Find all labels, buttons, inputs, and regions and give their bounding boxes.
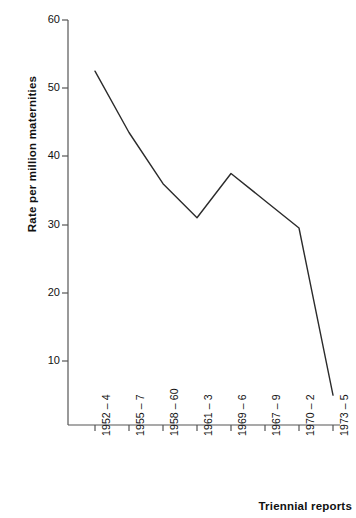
x-tick-label: 1958 – 60 <box>168 388 180 436</box>
x-tick-label: 1952 – 4 <box>100 394 112 436</box>
x-tick-label: 1969 – 6 <box>236 394 248 436</box>
x-tick-label: 1973 – 5 <box>338 394 350 436</box>
x-tick-marks <box>95 425 333 431</box>
x-tick-label: 1970 – 2 <box>304 394 316 436</box>
x-tick-label: 1955 – 7 <box>134 394 146 436</box>
chart-figure: Rate per million maternities 60 50 40 30… <box>0 0 356 518</box>
x-tick-label: 1961 – 3 <box>202 394 214 436</box>
x-tick-label: 1967 – 9 <box>270 394 282 436</box>
y-tick-marks <box>62 20 68 361</box>
x-axis-title: Triennial reports <box>258 500 352 512</box>
plot-area <box>0 0 356 518</box>
data-line-series <box>95 71 333 395</box>
